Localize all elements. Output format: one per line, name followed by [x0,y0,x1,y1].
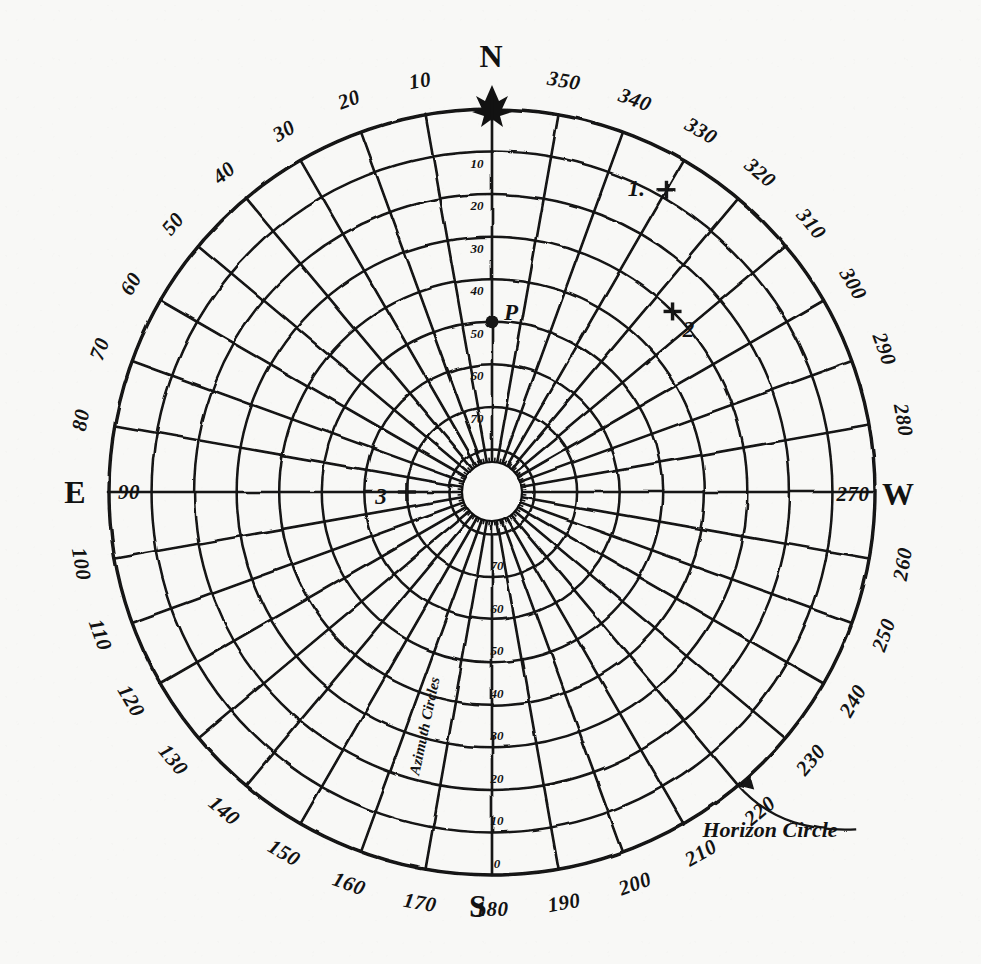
altitude-tick-lower-60-60: 60 [491,601,504,614]
altitude-tick-upper-70: 70 [471,411,484,424]
altitude-tick-lower-50-50: 50 [491,644,504,657]
altitude-tick-lower-70-70: 70 [491,559,504,572]
altitude-tick-lower-0-0: 0 [494,857,501,870]
point-label-1: 1. [628,176,645,199]
azimuth-tick-10: 10 [407,69,432,94]
diagram-sheet: 1020304050607080100110120130140150160170… [0,0,981,964]
cardinal-label-west: W [882,478,914,510]
altitude-tick-upper-60: 60 [471,369,484,382]
altitude-tick-lower-40-40: 40 [491,686,504,699]
azimuth-tick-350: 350 [546,68,582,94]
cardinal-label-north: N [479,40,502,72]
altitude-tick-upper-20: 20 [471,199,484,212]
azimuth-tick-260: 260 [889,546,915,582]
point-label-3: 3 [375,485,387,508]
altitude-tick-upper-30: 30 [471,241,484,254]
azimuth-tick-90: 90 [118,482,140,503]
azimuth-tick-100: 100 [68,546,94,582]
altitude-tick-upper-50: 50 [471,326,484,339]
altitude-tick-lower-30-30: 30 [491,729,504,742]
azimuth-tick-270: 270 [837,484,870,505]
azimuth-tick-170: 170 [402,889,438,915]
altitude-tick-lower-20-20: 20 [491,771,504,784]
cardinal-label-east: E [64,476,85,508]
altitude-tick-upper-10: 10 [471,156,484,169]
point-label-2: 2 [683,318,695,341]
north-arrow-icon [472,85,512,127]
cardinal-label-south: S [469,890,487,922]
azimuth-tick-190: 190 [546,889,582,915]
altitude-tick-lower-10-10: 10 [491,814,504,827]
altitude-tick-upper-40: 40 [471,284,484,297]
point-label-P: P [504,300,518,323]
azimuth-tick-280: 280 [889,402,915,438]
azimuth-tick-80: 80 [69,407,94,432]
horizon-circle-annotation: Horizon Circle [702,819,837,841]
zenith-center [458,458,527,527]
